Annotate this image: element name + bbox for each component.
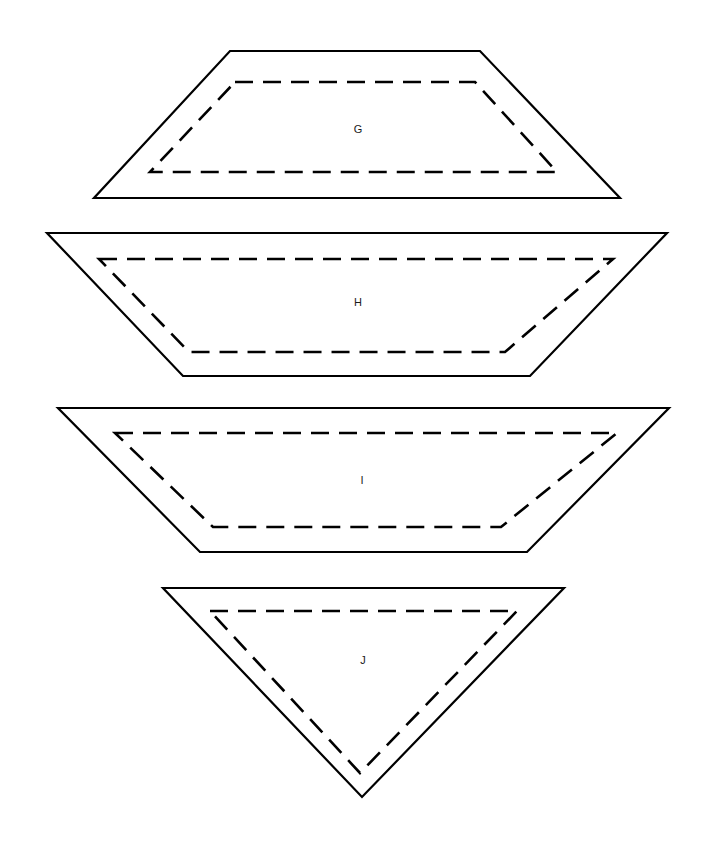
shape-label-i: I [360,474,363,486]
shape-label-g: G [354,123,363,135]
shapes-figure-canvas: G H I J [0,0,705,849]
shape-label-h: H [354,296,362,308]
figure-background [0,0,705,849]
shape-label-j: J [360,654,366,666]
